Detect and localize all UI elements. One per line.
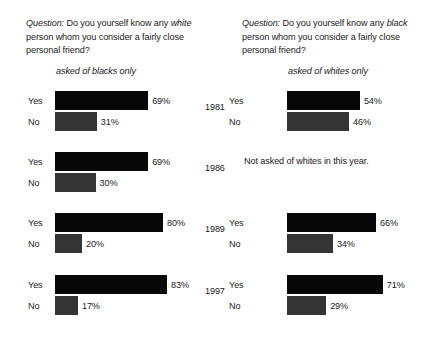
- bar-value-label: 20%: [86, 239, 104, 249]
- bar-no: [287, 112, 349, 131]
- chart-panel-white-friend: Question: Do you yourself know any white…: [0, 0, 215, 343]
- bar-value-label: 71%: [387, 280, 405, 290]
- bar-row-label: No: [28, 301, 52, 311]
- bar-row-label: No: [28, 117, 52, 127]
- bar-value-label: 29%: [330, 301, 348, 311]
- bar-row-label: Yes: [229, 218, 253, 228]
- question-emphasis-left: white: [171, 18, 192, 28]
- bar-no: [55, 173, 96, 192]
- bar-value-label: 17%: [82, 301, 100, 311]
- bar-value-label: 83%: [171, 280, 189, 290]
- bar-row: No17%: [0, 295, 215, 316]
- bar-yes: [287, 275, 383, 294]
- bar-yes: [55, 275, 167, 294]
- bar-row-label: No: [229, 239, 253, 249]
- not-asked-note: Not asked of whites in this year.: [244, 155, 384, 169]
- bar-row-label: No: [28, 239, 52, 249]
- bar-row: Yes69%: [0, 90, 215, 111]
- question-part1-right: Do you yourself know any: [282, 18, 384, 28]
- bar-row-label: Yes: [28, 96, 52, 106]
- bar-value-label: 69%: [152, 157, 170, 167]
- bar-row: No29%: [216, 295, 431, 316]
- bar-row: No20%: [0, 233, 215, 254]
- bar-value-label: 30%: [100, 178, 118, 188]
- bar-no: [55, 296, 78, 315]
- bar-no: [287, 234, 333, 253]
- bar-row-label: No: [229, 117, 253, 127]
- bar-row: Yes83%: [0, 274, 215, 295]
- bar-row: No46%: [216, 111, 431, 132]
- question-text-left: Question: Do you yourself know any white…: [26, 17, 212, 58]
- bar-group: Yes54%No46%: [216, 90, 431, 135]
- question-text-right: Question: Do you yourself know any black…: [242, 17, 428, 58]
- bar-row-label: No: [229, 301, 253, 311]
- bar-value-label: 31%: [101, 117, 119, 127]
- bar-row-label: Yes: [28, 157, 52, 167]
- bar-value-label: 66%: [380, 218, 398, 228]
- bar-group: Yes69%No30%1986: [0, 151, 215, 196]
- bar-row: Yes69%: [0, 151, 215, 172]
- bar-no: [287, 296, 326, 315]
- bar-value-label: 46%: [353, 117, 371, 127]
- bar-yes: [287, 91, 360, 110]
- bar-yes: [287, 213, 376, 232]
- bar-row-label: Yes: [229, 280, 253, 290]
- bar-row-label: No: [28, 178, 52, 188]
- bar-value-label: 80%: [167, 218, 185, 228]
- bar-row: No30%: [0, 172, 215, 193]
- bar-row: Yes66%: [216, 212, 431, 233]
- bar-row: Yes71%: [216, 274, 431, 295]
- bar-group: Yes66%No34%: [216, 212, 431, 257]
- bar-row: Yes54%: [216, 90, 431, 111]
- bar-group: Yes80%No20%1989: [0, 212, 215, 257]
- panel-subtitle-right: asked of whites only: [288, 66, 368, 76]
- bar-no: [55, 234, 82, 253]
- bar-yes: [55, 213, 163, 232]
- chart-panel-black-friend: Question: Do you yourself know any black…: [216, 0, 431, 343]
- bar-row-label: Yes: [229, 96, 253, 106]
- bar-yes: [55, 152, 148, 171]
- question-part1-left: Do you yourself know any: [66, 18, 168, 28]
- bar-group: Yes71%No29%: [216, 274, 431, 319]
- bar-value-label: 54%: [364, 96, 382, 106]
- question-part2-left: person whom you consider a fairly close …: [26, 32, 184, 56]
- bar-no: [55, 112, 97, 131]
- bar-group: Not asked of whites in this year.: [216, 151, 431, 196]
- bar-row: No31%: [0, 111, 215, 132]
- question-emphasis-right: black: [387, 18, 408, 28]
- bar-value-label: 34%: [337, 239, 355, 249]
- bar-row-label: Yes: [28, 218, 52, 228]
- question-label-left: Question:: [26, 18, 64, 28]
- bar-row-label: Yes: [28, 280, 52, 290]
- bar-group: Yes69%No31%1981: [0, 90, 215, 135]
- bar-value-label: 69%: [152, 96, 170, 106]
- bar-row: No34%: [216, 233, 431, 254]
- bar-yes: [55, 91, 148, 110]
- bar-group: Yes83%No17%1997: [0, 274, 215, 319]
- question-label-right: Question:: [242, 18, 280, 28]
- panel-subtitle-left: asked of blacks only: [56, 66, 136, 76]
- question-part2-right: person whom you consider a fairly close …: [242, 32, 400, 56]
- bar-row: Yes80%: [0, 212, 215, 233]
